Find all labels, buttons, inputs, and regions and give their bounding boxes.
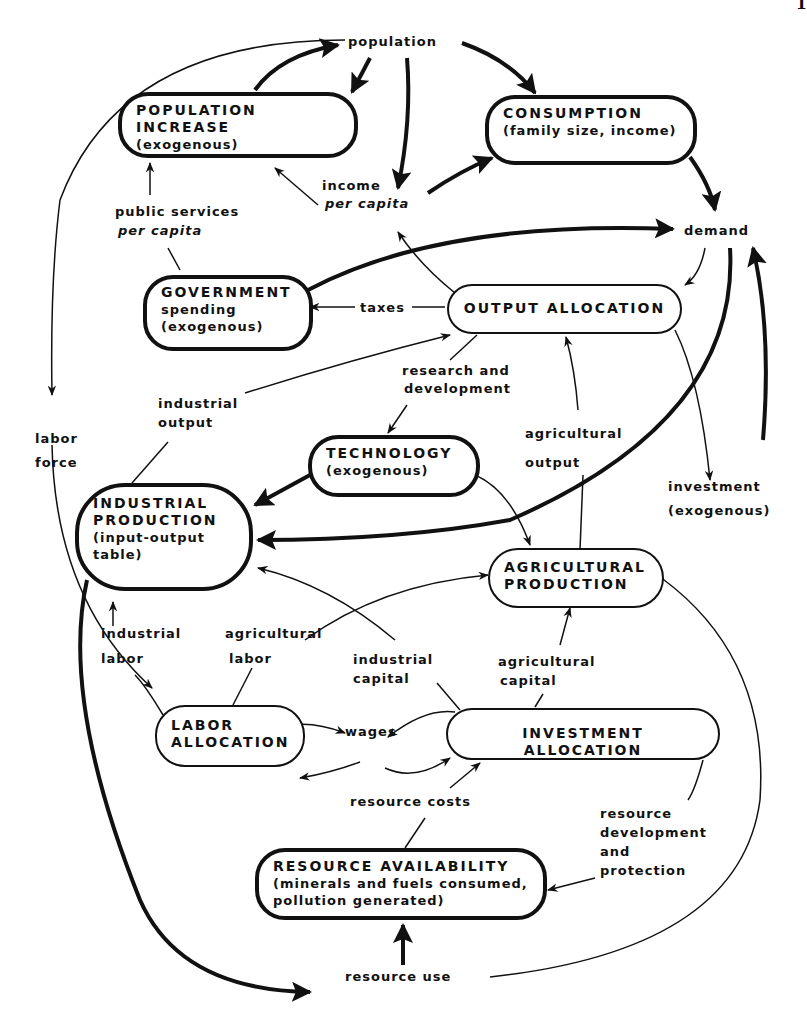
edge-agri-labor-to-agri xyxy=(305,575,488,640)
label-industrial-labor-2: labor xyxy=(101,650,144,667)
node-title: INVESTMENT ALLOCATION xyxy=(462,725,704,759)
label-agricultural-labor-2: labor xyxy=(229,650,272,667)
edge-invest-to-agri-capital xyxy=(535,694,543,707)
label-public-services-per-capita: per capita xyxy=(118,222,202,239)
label-research: research and xyxy=(402,362,510,379)
label-industrial-labor-1: industrial xyxy=(101,625,181,642)
edge-income-to-popinc xyxy=(275,168,318,205)
label-resource-development-1: resource xyxy=(600,805,672,822)
node-government: GOVERNMENT spending (exogenous) xyxy=(143,275,313,351)
node-title: LABOR xyxy=(171,717,289,734)
node-labor-allocation: LABOR ALLOCATION xyxy=(155,705,305,767)
edge-invest-to-ind-capital xyxy=(437,683,460,710)
edge-technology-to-industrial xyxy=(255,475,310,505)
label-industrial-capital-1: industrial xyxy=(353,651,433,668)
label-industrial-output-1: industrial xyxy=(158,395,238,412)
edge-output-to-investment xyxy=(675,330,710,480)
node-subtitle: (exogenous) xyxy=(326,462,462,479)
node-title: GOVERNMENT xyxy=(161,284,295,301)
edge-invest-to-resource-dev xyxy=(688,760,703,800)
node-consumption: CONSUMPTION (family size, income) xyxy=(485,95,697,165)
node-output-allocation: OUTPUT ALLOCATION xyxy=(447,284,682,334)
edge-government-to-demand xyxy=(308,228,673,290)
edge-agri-output-to-output xyxy=(566,337,578,410)
edge-labor-alloc-to-agri-labor xyxy=(233,668,252,705)
edge-wages-to-invest xyxy=(385,758,450,773)
label-industrial-output-2: output xyxy=(158,414,213,431)
node-industrial-production: INDUSTRIAL PRODUCTION (input-output tabl… xyxy=(75,483,253,591)
label-population: population xyxy=(348,33,437,50)
edge-demand-to-output xyxy=(685,248,705,285)
edge-availability-to-resource-costs xyxy=(405,818,425,848)
label-labor-force-1: labor xyxy=(35,430,78,447)
edge-resource-costs-to-invest xyxy=(450,763,480,788)
label-investment-exogenous: (exogenous) xyxy=(668,502,770,519)
node-title: PRODUCTION xyxy=(504,576,648,593)
label-labor-force-2: force xyxy=(35,454,78,471)
page-number: 1 xyxy=(796,0,807,13)
node-title: CONSUMPTION xyxy=(503,105,679,122)
node-population-increase: POPULATION INCREASE (exogenous) xyxy=(118,92,358,158)
node-technology: TECHNOLOGY (exogenous) xyxy=(308,435,480,497)
node-subtitle: spending xyxy=(161,301,295,318)
edge-invest-to-wages xyxy=(388,712,455,737)
node-title: PRODUCTION xyxy=(93,512,235,529)
label-resource-costs: resource costs xyxy=(350,793,471,810)
label-resource-development-3: and xyxy=(600,843,630,860)
label-industrial-capital-2: capital xyxy=(353,670,410,687)
edge-population-to-income xyxy=(398,58,408,188)
label-public-services: public services xyxy=(115,203,239,220)
label-agricultural-capital-2: capital xyxy=(500,672,557,689)
label-taxes: taxes xyxy=(360,299,405,316)
label-investment: investment xyxy=(668,478,761,495)
edge-industrial-to-industrial-output xyxy=(132,442,168,483)
label-income-per-capita: per capita xyxy=(325,195,409,212)
node-subtitle: (exogenous) xyxy=(161,318,295,335)
label-demand: demand xyxy=(684,222,749,239)
edge-resource-dev-to-availability xyxy=(548,878,595,890)
edge-income-to-consumption xyxy=(428,158,492,193)
node-title: TECHNOLOGY xyxy=(326,445,462,462)
edge-agri-capital-to-agri xyxy=(560,608,570,645)
edge-population-to-popinc xyxy=(352,58,370,92)
label-agricultural-labor-1: agricultural xyxy=(225,625,322,642)
node-subtitle: (input-output xyxy=(93,529,235,546)
label-agricultural-output-2: output xyxy=(525,454,580,471)
label-agricultural-capital-1: agricultural xyxy=(498,653,595,670)
node-title: RESOURCE AVAILABILITY xyxy=(273,858,529,875)
edge-investment-to-demand xyxy=(753,248,766,440)
node-title: INDUSTRIAL xyxy=(93,495,235,512)
node-title: AGRICULTURAL xyxy=(504,559,648,576)
label-income: income xyxy=(322,177,381,194)
label-wages: wages xyxy=(345,723,397,740)
node-subtitle: (minerals and fuels consumed, xyxy=(273,875,529,892)
edge-tech-to-agri xyxy=(475,475,530,545)
edge-labor-alloc-to-ind-labor xyxy=(135,675,163,715)
node-title: ALLOCATION xyxy=(171,734,289,751)
edge-output-to-research xyxy=(450,335,477,360)
edge-government-to-public-services xyxy=(168,248,180,270)
node-subtitle: table) xyxy=(93,546,235,563)
edge-population-to-consumption xyxy=(462,43,535,93)
label-development: development xyxy=(404,380,511,397)
label-resource-development-4: protection xyxy=(600,862,686,879)
edge-wages-to-labor xyxy=(300,762,360,778)
node-subtitle: (family size, income) xyxy=(503,122,679,139)
node-resource-availability: RESOURCE AVAILABILITY (minerals and fuel… xyxy=(255,848,547,920)
node-title: POPULATION INCREASE xyxy=(136,102,340,136)
label-agricultural-output-1: agricultural xyxy=(525,425,622,442)
label-resource-development-2: development xyxy=(600,824,707,841)
node-title: OUTPUT ALLOCATION xyxy=(463,300,666,317)
node-agricultural-production: AGRICULTURAL PRODUCTION xyxy=(488,548,664,608)
node-subtitle: pollution generated) xyxy=(273,892,529,909)
edge-popinc-to-population xyxy=(255,45,338,90)
label-resource-use: resource use xyxy=(345,968,451,985)
node-subtitle: (exogenous) xyxy=(136,136,340,153)
node-investment-allocation: INVESTMENT ALLOCATION xyxy=(446,708,720,760)
edge-research-to-technology xyxy=(388,405,407,433)
edge-consumption-to-demand xyxy=(690,157,715,210)
